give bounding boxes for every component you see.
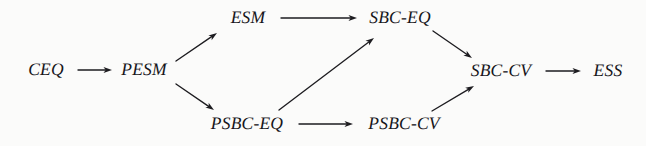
node-pesm: PESM <box>121 61 167 79</box>
edge-pesm-to-esm <box>176 33 217 61</box>
arrowhead-icon <box>104 67 113 73</box>
edge-psbc-cv-to-sbc-cv <box>432 86 474 111</box>
arrowhead-icon <box>365 38 374 45</box>
edge-layer <box>0 0 646 146</box>
node-ess: ESS <box>594 62 623 80</box>
node-psbc-cv: PSBC-CV <box>368 115 439 133</box>
edge-psbc-eq-to-sbc-eq <box>279 38 374 110</box>
flow-diagram: CEQPESMESMSBC-EQSBC-CVESSPSBC-EQPSBC-CV <box>0 0 646 146</box>
arrowhead-icon <box>345 121 354 127</box>
arrowhead-icon <box>573 68 582 74</box>
edge-shaft <box>432 89 468 111</box>
edge-shaft <box>176 37 212 61</box>
edge-shaft <box>176 84 209 106</box>
arrowhead-icon <box>465 86 474 93</box>
node-sbc-eq: SBC-EQ <box>369 9 430 27</box>
arrowhead-icon <box>205 103 214 110</box>
edge-pesm-to-psbc-eq <box>176 84 214 110</box>
arrowhead-icon <box>208 33 217 40</box>
node-sbc-cv: SBC-CV <box>471 62 532 80</box>
edge-psbc-eq-to-psbc-cv <box>299 121 353 127</box>
edge-shaft <box>279 42 369 110</box>
edge-ceq-to-pesm <box>78 67 112 73</box>
edge-shaft <box>433 31 467 54</box>
node-esm: ESM <box>231 9 266 27</box>
edge-sbc-eq-to-sbc-cv <box>433 31 472 58</box>
edge-esm-to-sbc-eq <box>281 15 357 21</box>
edge-sbc-cv-to-ess <box>546 68 581 74</box>
arrowhead-icon <box>463 51 472 58</box>
arrowhead-icon <box>349 15 358 21</box>
node-psbc-eq: PSBC-EQ <box>211 115 283 133</box>
node-ceq: CEQ <box>28 61 64 79</box>
